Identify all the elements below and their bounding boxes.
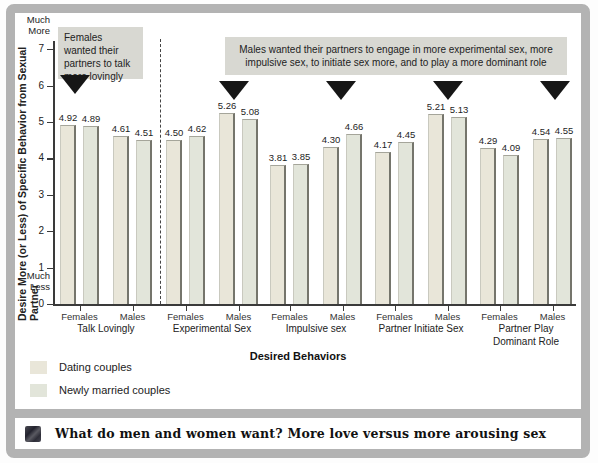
pointer-triangle-icon [60, 75, 90, 94]
caption-divider-band [15, 409, 581, 418]
pointer-triangle-icon [433, 81, 463, 100]
bar [83, 126, 99, 304]
bar-value-label: 4.09 [502, 142, 521, 153]
category-separator-dashed-line [160, 39, 161, 304]
y-axis-tick-label: 7 [24, 43, 44, 54]
y-axis-tick-label: 0 [24, 298, 44, 309]
legend-swatch-dating [30, 361, 47, 374]
y-axis-tick [47, 304, 53, 305]
legend: Dating couples Newly married couples [30, 359, 170, 405]
bar [323, 147, 339, 304]
bar-value-label: 4.62 [188, 123, 207, 134]
figure-screenshot: Desire More (or Less) of Specific Behavi… [0, 0, 598, 463]
y-axis-tick [47, 86, 53, 87]
figure-frame: Desire More (or Less) of Specific Behavi… [6, 4, 590, 458]
y-axis-tick [47, 268, 53, 269]
chart-area: Desire More (or Less) of Specific Behavi… [15, 13, 581, 409]
subgroup-label: Males [521, 311, 582, 322]
y-axis-much-less-label: Much Less [16, 271, 50, 293]
bar [113, 136, 129, 304]
pointer-triangle-icon [326, 81, 356, 100]
bar [346, 134, 362, 304]
bar-value-label: 4.61 [112, 123, 131, 134]
bar [136, 140, 152, 304]
bar [480, 148, 496, 304]
bar [375, 152, 391, 304]
y-axis-tick-label: 5 [24, 116, 44, 127]
bar [270, 165, 286, 304]
caption-bar: What do men and women want? More love ve… [15, 418, 581, 449]
y-axis-line [53, 41, 55, 304]
bar-value-label: 5.21 [427, 101, 446, 112]
bar-value-label: 4.50 [165, 127, 184, 138]
bar [556, 138, 572, 304]
pointer-triangle-icon [540, 81, 570, 100]
bar-value-label: 4.30 [322, 134, 341, 145]
bar [166, 140, 182, 304]
bar [451, 117, 467, 304]
bar [503, 155, 519, 304]
bar-value-label: 5.13 [450, 104, 469, 115]
y-axis-tick [47, 158, 53, 159]
y-axis-tick-label: 6 [24, 80, 44, 91]
bar [60, 125, 76, 304]
bar-value-label: 4.66 [345, 121, 364, 132]
bar [242, 119, 258, 304]
legend-label: Newly married couples [59, 384, 170, 396]
y-axis-tick [47, 49, 53, 50]
bar [219, 113, 235, 304]
y-axis-tick [47, 231, 53, 232]
bar-value-label: 4.54 [532, 126, 551, 137]
legend-label: Dating couples [59, 361, 132, 373]
bar-value-label: 5.08 [241, 106, 260, 117]
bar-value-label: 4.45 [397, 129, 416, 140]
annotation-box-males: Males wanted their partners to engage in… [225, 37, 567, 75]
bar-value-label: 4.29 [479, 135, 498, 146]
y-axis-tick [47, 122, 53, 123]
bar [398, 142, 414, 304]
category-label: Partner Play Dominant Role [461, 323, 581, 348]
bar-value-label: 5.26 [218, 100, 237, 111]
legend-item-newly-married: Newly married couples [30, 382, 170, 398]
feature-thumbnail-icon [25, 426, 41, 442]
x-axis-title: Desired Behaviors [198, 350, 398, 362]
bar [293, 164, 309, 304]
bar-value-label: 3.81 [269, 152, 288, 163]
legend-swatch-newly-married [30, 384, 47, 397]
y-axis-tick [47, 195, 53, 196]
y-axis-tick-label: 3 [24, 189, 44, 200]
y-axis-tick-label: 4 [24, 152, 44, 163]
bar [533, 139, 549, 304]
bar-value-label: 4.89 [82, 113, 101, 124]
bar-value-label: 4.51 [135, 127, 154, 138]
bar-value-label: 3.85 [292, 151, 311, 162]
caption-text: What do men and women want? More love ve… [55, 426, 546, 441]
y-axis-tick-label: 2 [24, 225, 44, 236]
y-axis-much-more-label: Much More [16, 15, 50, 37]
bar [428, 114, 444, 304]
bar-value-label: 4.17 [374, 139, 393, 150]
bar-value-label: 4.92 [59, 112, 78, 123]
bar [189, 136, 205, 304]
bar-value-label: 4.55 [555, 125, 574, 136]
pointer-triangle-icon [219, 81, 249, 100]
x-axis-line [53, 304, 576, 306]
legend-item-dating: Dating couples [30, 359, 170, 375]
annotation-box-females: Females wanted their partners to talk mo… [58, 27, 143, 79]
